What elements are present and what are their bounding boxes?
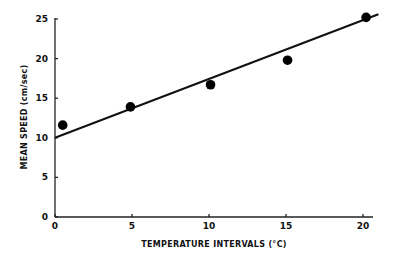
y-tick-label: 25	[35, 14, 48, 24]
data-point	[283, 55, 293, 65]
x-tick-label: 20	[357, 221, 370, 231]
y-tick-label: 0	[42, 212, 48, 222]
x-tick-label: 15	[280, 221, 293, 231]
y-tick-label: 10	[35, 133, 48, 143]
y-tick-label: 5	[42, 172, 48, 182]
data-points	[58, 13, 371, 130]
x-tick-label: 0	[52, 221, 58, 231]
data-point	[126, 102, 136, 112]
data-point	[58, 120, 68, 130]
data-point	[206, 80, 216, 90]
axes	[55, 18, 373, 217]
x-tick-label: 5	[129, 221, 135, 231]
y-tick-label: 15	[35, 93, 48, 103]
x-axis-label: TEMPERATURE INTERVALS (°C)	[141, 240, 287, 249]
x-tick-label: 10	[203, 221, 216, 231]
data-point	[361, 13, 371, 23]
y-axis-label: MEAN SPEED (cm/sec)	[20, 64, 29, 169]
y-tick-label: 20	[35, 54, 48, 64]
regression-line	[55, 14, 378, 138]
scatter-chart: 05101520 0510152025 TEMPERATURE INTERVAL…	[0, 0, 401, 260]
